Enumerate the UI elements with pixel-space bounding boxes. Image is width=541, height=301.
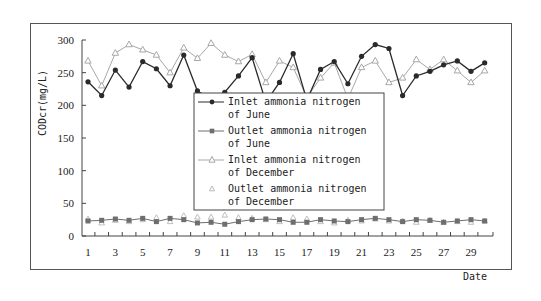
data-point <box>127 218 132 223</box>
legend-label: of June <box>228 138 270 149</box>
y-tick-label: 250 <box>58 67 75 79</box>
x-tick-label: 27 <box>438 246 450 258</box>
data-point <box>290 215 296 220</box>
data-point <box>154 66 159 71</box>
x-tick-label: 17 <box>301 246 313 258</box>
data-point <box>181 44 187 50</box>
data-point <box>482 60 487 65</box>
y-tick-label: 50 <box>63 197 75 209</box>
data-point <box>181 52 186 57</box>
y-tick-label: 300 <box>58 34 75 46</box>
x-tick-label: 11 <box>219 246 230 258</box>
data-point <box>208 214 214 219</box>
legend-marker <box>210 129 215 134</box>
data-point <box>469 217 474 222</box>
data-point <box>168 216 173 221</box>
data-point <box>126 84 131 89</box>
data-point <box>413 56 419 62</box>
data-point <box>440 56 446 62</box>
data-point <box>332 218 337 223</box>
data-point <box>400 93 405 98</box>
legend-label: of December <box>228 167 294 178</box>
data-point <box>140 59 145 64</box>
legend-label: Outlet ammonia nitrogen <box>228 183 366 194</box>
data-point <box>112 50 118 56</box>
legend-label: of June <box>228 109 270 120</box>
data-point <box>373 216 378 221</box>
legend-label: Outlet ammonia nitrogen <box>228 125 366 136</box>
data-point <box>250 55 255 60</box>
data-point <box>291 51 296 56</box>
data-point <box>318 67 323 72</box>
x-tick-label: 21 <box>356 246 367 258</box>
y-tick-label: 100 <box>58 165 75 177</box>
x-tick-label: 9 <box>195 246 201 258</box>
data-point <box>250 217 255 222</box>
data-point <box>140 216 145 221</box>
data-point <box>359 54 364 59</box>
data-point <box>318 217 323 222</box>
data-point <box>481 67 487 73</box>
data-point <box>400 219 405 224</box>
data-point <box>236 215 242 220</box>
data-point <box>372 57 378 63</box>
data-point <box>359 217 364 222</box>
x-tick-label: 7 <box>167 246 173 258</box>
data-point <box>113 67 118 72</box>
data-point <box>167 83 172 88</box>
data-point <box>386 217 391 222</box>
data-point <box>154 219 159 224</box>
data-point <box>181 213 187 218</box>
data-point <box>468 79 474 85</box>
x-tick-label: 15 <box>274 246 286 258</box>
legend-label: of December <box>228 196 294 207</box>
y-tick-label: 0 <box>69 230 75 242</box>
series-outlet-ammonia-nitrogen-of-december <box>85 212 487 225</box>
data-point <box>277 80 282 85</box>
x-tick-label: 1 <box>85 246 91 258</box>
data-point <box>291 220 296 225</box>
data-point <box>427 218 432 223</box>
data-point <box>99 218 104 223</box>
legend: Inlet ammonia nitrogenof JuneOutlet ammo… <box>194 93 384 210</box>
legend-label: Inlet ammonia nitrogen <box>228 96 360 107</box>
data-point <box>85 57 91 63</box>
data-point <box>482 218 487 223</box>
data-point <box>263 217 268 222</box>
data-point <box>113 217 118 222</box>
data-point <box>373 42 378 47</box>
data-point <box>454 67 460 73</box>
data-point <box>276 57 282 63</box>
data-point <box>195 220 200 225</box>
data-point <box>98 82 104 88</box>
data-point <box>85 79 90 84</box>
data-point <box>332 59 337 64</box>
data-point <box>195 214 201 219</box>
data-point <box>345 81 350 86</box>
y-tick-label: 150 <box>58 132 75 144</box>
x-axis-label: Date <box>463 271 487 282</box>
series-line <box>88 43 485 99</box>
data-point <box>441 62 446 67</box>
data-point <box>222 212 228 217</box>
data-point <box>236 219 241 224</box>
x-tick-label: 25 <box>411 246 423 258</box>
data-point <box>455 218 460 223</box>
data-point <box>99 93 104 98</box>
data-point <box>236 73 241 78</box>
data-point <box>86 218 91 223</box>
x-tick-label: 23 <box>383 246 395 258</box>
data-point <box>208 40 214 46</box>
series-inlet-ammonia-nitrogen-of-december <box>85 40 488 101</box>
data-point <box>277 217 282 222</box>
data-point <box>414 217 419 222</box>
data-point <box>181 217 186 222</box>
legend-marker <box>210 100 215 105</box>
x-tick-label: 29 <box>466 246 478 258</box>
data-point <box>427 69 432 74</box>
data-point <box>345 219 350 224</box>
data-point <box>414 73 419 78</box>
y-axis-label: CODcr(mg/L) <box>37 70 48 136</box>
data-point <box>304 220 309 225</box>
data-point <box>126 41 132 47</box>
